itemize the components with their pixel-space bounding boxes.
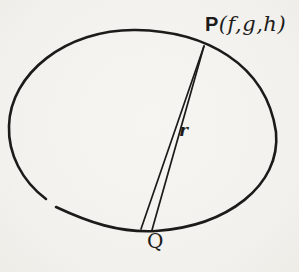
- ellipse-curve: [9, 30, 276, 231]
- ellipse-diagram: P(f,g,h) r Q: [0, 0, 299, 272]
- chord-line-left: [141, 46, 204, 229]
- label-point-q: Q: [147, 229, 163, 253]
- chord-line-right: [152, 46, 204, 230]
- label-radius-r: r: [179, 120, 188, 140]
- label-point-p: P(f,g,h): [205, 12, 286, 36]
- point-p-letter: P: [205, 13, 219, 35]
- point-p-coordinates: (f,g,h): [219, 12, 286, 36]
